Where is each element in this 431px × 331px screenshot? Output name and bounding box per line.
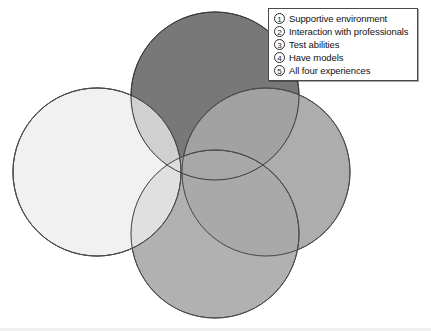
legend-label-2: Interaction with professionals [289, 26, 413, 38]
legend-item-4: 4 Have models [274, 51, 413, 64]
legend-marker-4-icon: 4 [274, 52, 285, 63]
legend-item-3: 3 Test abilities [274, 38, 413, 51]
legend-marker-3-icon: 3 [274, 39, 285, 50]
circle-set-left-overlay [13, 88, 181, 256]
legend-marker-1-icon: 1 [274, 13, 285, 24]
venn-diagram-figure: 1 Supportive environment 2 Interaction w… [0, 0, 431, 331]
legend-marker-2-icon: 2 [274, 26, 285, 37]
legend-item-2: 2 Interaction with professionals [274, 25, 413, 38]
legend-box: 1 Supportive environment 2 Interaction w… [268, 8, 418, 81]
legend-item-5: 5 All four experiences [274, 64, 413, 77]
legend-marker-5-icon: 5 [274, 65, 285, 76]
legend-label-1: Supportive environment [289, 13, 413, 25]
legend-label-4: Have models [289, 52, 413, 64]
legend-label-3: Test abilities [289, 39, 413, 51]
legend-label-5: All four experiences [289, 65, 413, 77]
legend-item-1: 1 Supportive environment [274, 12, 413, 25]
